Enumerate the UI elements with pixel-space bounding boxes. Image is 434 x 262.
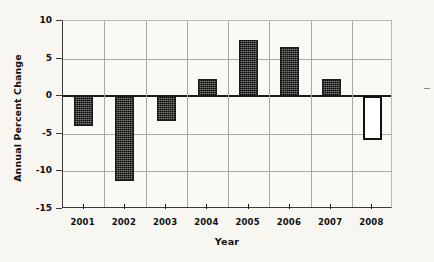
y-axis-tick-labels: 1050-5-10-15	[0, 0, 60, 262]
x-axis-tick-labels: 20012002200320042005200620072008	[62, 208, 392, 238]
x-axis-tick-label-2002: 2002	[102, 217, 146, 227]
chart-figure: Annual Percent Change 1050-5-10-15 20012…	[0, 0, 434, 262]
bar-2007	[322, 79, 341, 96]
gridline-horizontal	[63, 134, 391, 135]
gridline-vertical	[104, 21, 105, 207]
gridline-horizontal	[63, 59, 391, 60]
y-axis-tick-label: -10	[4, 165, 52, 175]
x-axis-tick-label-2004: 2004	[184, 217, 228, 227]
y-axis-tick-label: 0	[4, 90, 52, 100]
page-edge-mark	[424, 88, 430, 89]
gridline-vertical	[269, 21, 270, 207]
bar-2004	[198, 79, 217, 96]
zero-line	[63, 95, 391, 97]
gridline-vertical	[311, 21, 312, 207]
gridline-horizontal	[63, 171, 391, 172]
gridline-vertical	[352, 21, 353, 207]
bar-2001	[74, 96, 93, 126]
plot-area	[62, 20, 392, 208]
x-axis-tick-label-2005: 2005	[226, 217, 270, 227]
x-axis-tick-label-2007: 2007	[308, 217, 352, 227]
gridline-vertical	[228, 21, 229, 207]
x-axis-tick-mark	[330, 204, 331, 209]
bar-2008	[363, 96, 382, 140]
y-axis-tick-label: 5	[4, 53, 52, 63]
x-axis-tick-mark	[206, 204, 207, 209]
x-axis-tick-label-2008: 2008	[349, 217, 393, 227]
x-axis-tick-label-2003: 2003	[143, 217, 187, 227]
gridline-vertical	[146, 21, 147, 207]
x-axis-tick-mark	[289, 204, 290, 209]
bar-2002	[115, 96, 134, 181]
x-axis-tick-mark	[248, 204, 249, 209]
y-axis-tick-label: -5	[4, 128, 52, 138]
y-axis-tick-label: -15	[4, 203, 52, 213]
x-axis-tick-label-2001: 2001	[61, 217, 105, 227]
x-axis-title: Year	[62, 236, 392, 247]
x-axis-tick-mark	[124, 204, 125, 209]
x-axis-tick-label-2006: 2006	[267, 217, 311, 227]
bar-2006	[280, 47, 299, 96]
gridline-vertical	[187, 21, 188, 207]
x-axis-tick-mark	[165, 204, 166, 209]
bar-2003	[157, 96, 176, 121]
y-axis-tick-label: 10	[4, 15, 52, 25]
x-axis-tick-mark	[83, 204, 84, 209]
bar-2005	[239, 40, 258, 96]
x-axis-tick-mark	[371, 204, 372, 209]
